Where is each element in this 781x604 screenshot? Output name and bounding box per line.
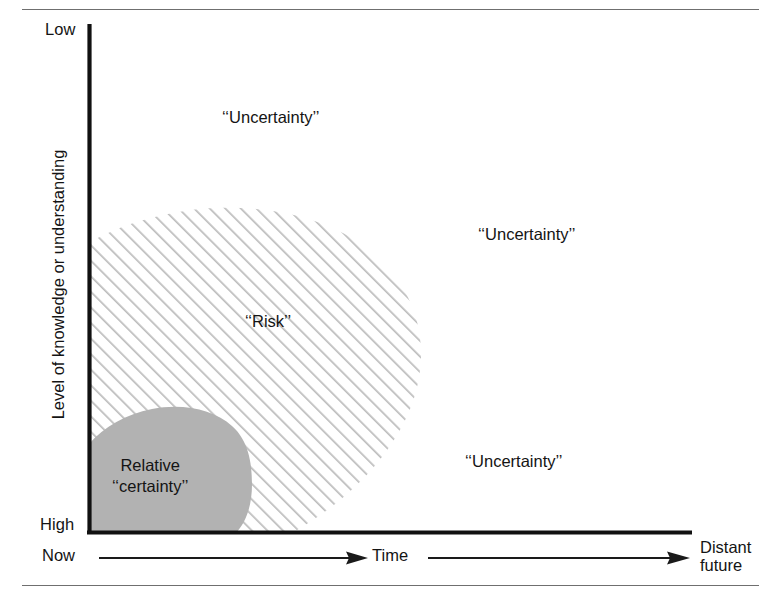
relative-certainty-label-line1: Relative (112, 455, 188, 476)
x-axis-end-label: Distant future (700, 538, 751, 575)
now-to-time-arrow (99, 552, 368, 565)
uncertainty-top-label: ‘‘Uncertainty’’ (222, 108, 320, 127)
time-to-future-arrow (428, 552, 690, 565)
x-axis-middle-label: Time (372, 546, 408, 565)
uncertainty-right-label: ‘‘Uncertainty’’ (478, 225, 576, 244)
risk-label: ‘‘Risk’’ (245, 312, 291, 331)
x-axis-start-label: Now (42, 546, 75, 565)
y-axis-top-label: Low (45, 20, 76, 39)
relative-certainty-label: Relative ‘‘certainty’’ (112, 455, 188, 496)
uncertainty-bottom-right-label: ‘‘Uncertainty’’ (465, 452, 563, 471)
top-divider-rule (22, 9, 759, 10)
relative-certainty-label-line2: ‘‘certainty’’ (112, 476, 188, 497)
x-axis-end-label-line1: Distant (700, 538, 751, 556)
diagram-canvas (0, 0, 781, 604)
y-axis-title: Level of knowledge or understanding (49, 135, 68, 435)
x-axis-end-label-line2: future (700, 556, 742, 574)
y-axis-bottom-label: High (40, 515, 74, 534)
bottom-divider-rule (22, 585, 759, 586)
